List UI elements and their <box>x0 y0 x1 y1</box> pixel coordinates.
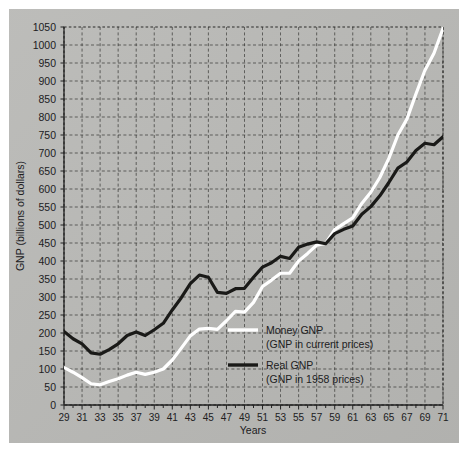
y-axis-tick-labels: 0501001502002503003504004505005506006507… <box>33 21 57 411</box>
y-tick-label: 0 <box>50 399 56 411</box>
x-tick-label: 31 <box>76 412 88 423</box>
legend-label-real-gnp: Real GNP <box>266 359 313 371</box>
x-axis-tick-marks <box>64 405 443 410</box>
y-tick-label: 600 <box>38 183 56 195</box>
x-tick-label: 59 <box>329 412 341 423</box>
y-tick-label: 800 <box>38 111 56 123</box>
grid-vertical <box>82 27 443 405</box>
y-tick-label: 950 <box>38 57 56 69</box>
y-tick-label: 300 <box>38 291 56 303</box>
x-tick-label: 67 <box>401 412 413 423</box>
legend-sublabel-money-gnp: (GNP in current prices) <box>266 338 373 350</box>
x-tick-label: 57 <box>311 412 323 423</box>
y-tick-label: 1050 <box>33 21 57 33</box>
x-tick-label: 71 <box>437 412 449 423</box>
x-tick-label: 53 <box>275 412 287 423</box>
x-tick-label: 29 <box>58 412 70 423</box>
y-tick-label: 500 <box>38 219 56 231</box>
y-tick-label: 150 <box>38 345 56 357</box>
y-tick-label: 550 <box>38 201 56 213</box>
legend-sublabel-real-gnp: (GNP in 1958 prices) <box>266 373 364 385</box>
x-tick-label: 41 <box>167 412 179 423</box>
y-tick-label: 100 <box>38 363 56 375</box>
x-tick-label: 61 <box>347 412 359 423</box>
legend-label-money-gnp: Money GNP <box>266 324 323 336</box>
y-tick-label: 250 <box>38 309 56 321</box>
y-tick-label: 900 <box>38 75 56 87</box>
x-tick-label: 35 <box>113 412 125 423</box>
y-tick-label: 350 <box>38 273 56 285</box>
x-tick-label: 43 <box>185 412 197 423</box>
x-tick-label: 45 <box>203 412 215 423</box>
y-axis-label: GNP (billions of dollars) <box>14 161 26 271</box>
figure-root: 0501001502002503003504004505005506006507… <box>0 0 468 468</box>
y-tick-label: 400 <box>38 255 56 267</box>
y-tick-label: 1000 <box>33 39 57 51</box>
x-tick-label: 65 <box>383 412 395 423</box>
y-tick-label: 200 <box>38 327 56 339</box>
x-tick-label: 49 <box>239 412 251 423</box>
x-tick-label: 51 <box>257 412 269 423</box>
y-tick-label: 450 <box>38 237 56 249</box>
gnp-line-chart: 0501001502002503003504004505005506006507… <box>0 0 468 468</box>
series-line-real-gnp <box>64 137 443 354</box>
y-tick-label: 50 <box>44 381 56 393</box>
y-tick-label: 650 <box>38 165 56 177</box>
x-tick-label: 39 <box>149 412 161 423</box>
y-tick-label: 700 <box>38 147 56 159</box>
x-tick-label: 63 <box>365 412 377 423</box>
x-axis-label: Years <box>240 424 266 436</box>
x-tick-label: 55 <box>293 412 305 423</box>
y-tick-label: 750 <box>38 129 56 141</box>
x-tick-label: 37 <box>131 412 143 423</box>
x-tick-label: 69 <box>419 412 431 423</box>
x-tick-label: 47 <box>221 412 233 423</box>
chart-plot-area: 0501001502002503003504004505005506006507… <box>0 0 468 468</box>
plot-frame <box>64 27 443 405</box>
x-axis-tick-labels: 2931333537394143454749515355575961636567… <box>58 412 449 423</box>
y-tick-label: 850 <box>38 93 56 105</box>
grid-horizontal <box>64 45 443 387</box>
x-tick-label: 33 <box>95 412 107 423</box>
